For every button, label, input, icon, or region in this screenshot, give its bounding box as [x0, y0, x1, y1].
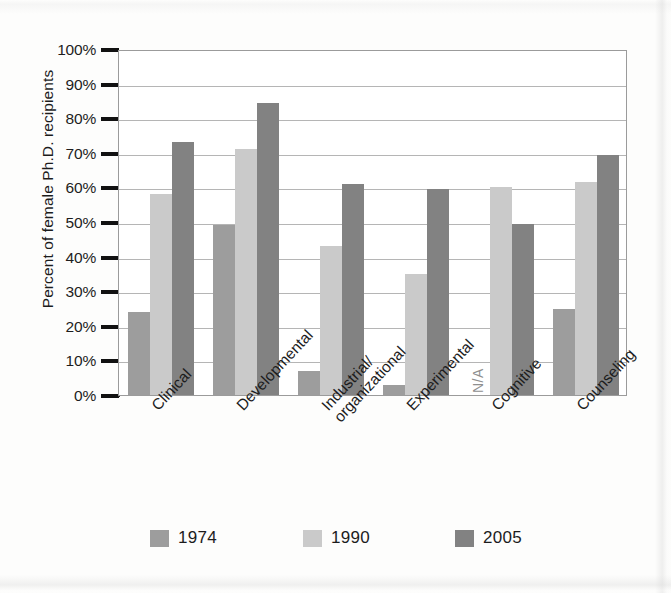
bar: [575, 182, 597, 395]
y-axis-tick-label-wrap: 10%: [36, 352, 96, 368]
y-axis-tick: [101, 48, 119, 52]
legend-label: 2005: [483, 528, 522, 548]
legend-item[interactable]: 1974: [150, 528, 217, 548]
y-axis-tick: [101, 325, 119, 329]
y-axis-tick-label: 70%: [40, 145, 96, 163]
bar: [257, 103, 279, 395]
y-axis-tick-label: 100%: [40, 41, 96, 59]
y-axis-tick-label: 20%: [40, 318, 96, 336]
legend-item[interactable]: 2005: [455, 528, 522, 548]
legend-item[interactable]: 1990: [303, 528, 370, 548]
y-axis-tick: [101, 83, 119, 87]
chart-legend: 197419902005: [150, 528, 550, 554]
bar: [383, 385, 405, 395]
gridline: [119, 189, 626, 190]
grouped-bar-chart: Percent of female Ph.D. recipients 100%9…: [0, 0, 671, 593]
y-axis-tick-label: 90%: [40, 76, 96, 94]
y-axis-tick-label: 40%: [40, 249, 96, 267]
bar: [553, 309, 575, 396]
gridline: [119, 259, 626, 260]
y-axis-tick-label: 10%: [40, 352, 96, 370]
legend-swatch-icon: [455, 530, 474, 547]
y-axis-tick-label-wrap: 0%: [36, 387, 96, 403]
y-axis-tick: [101, 394, 119, 398]
y-axis-tick-label: 30%: [40, 283, 96, 301]
legend-swatch-icon: [150, 530, 169, 547]
bar: [405, 274, 427, 395]
y-axis-tick-label-wrap: 60%: [36, 179, 96, 195]
bar: [213, 225, 235, 395]
y-axis-tick: [101, 290, 119, 294]
y-axis-tick: [101, 152, 119, 156]
bar: [490, 187, 512, 395]
bar: [320, 246, 342, 395]
bar: [172, 142, 194, 395]
y-axis-tick: [101, 256, 119, 260]
gridline: [119, 224, 626, 225]
y-axis-tick-label-wrap: 40%: [36, 249, 96, 265]
y-axis-tick-label: 50%: [40, 214, 96, 232]
bar: [150, 194, 172, 395]
y-axis-tick: [101, 117, 119, 121]
scanned-chart-page: Percent of female Ph.D. recipients 100%9…: [0, 0, 671, 593]
y-axis-tick-label-wrap: 50%: [36, 214, 96, 230]
y-axis-tick-label-wrap: 100%: [36, 41, 96, 57]
legend-swatch-icon: [303, 530, 322, 547]
bar: [235, 149, 257, 395]
bar: [128, 312, 150, 395]
y-axis-tick: [101, 186, 119, 190]
gridline: [119, 86, 626, 87]
y-axis-tick-label-wrap: 90%: [36, 76, 96, 92]
y-axis-tick: [101, 359, 119, 363]
legend-label: 1990: [331, 528, 370, 548]
y-axis-tick-label-wrap: 70%: [36, 145, 96, 161]
bar: [298, 371, 320, 395]
y-axis-tick-label: 0%: [40, 387, 96, 405]
gridline: [119, 293, 626, 294]
y-axis-tick-label-wrap: 20%: [36, 318, 96, 334]
y-axis-tick-label-wrap: 30%: [36, 283, 96, 299]
y-axis-tick: [101, 221, 119, 225]
gridline: [119, 120, 626, 121]
gridline: [119, 328, 626, 329]
bar-na-marker: N/A: [470, 368, 486, 393]
legend-label: 1974: [178, 528, 217, 548]
gridline: [119, 155, 626, 156]
y-axis-tick-label: 60%: [40, 179, 96, 197]
y-axis-tick-label-wrap: 80%: [36, 110, 96, 126]
y-axis-tick-label: 80%: [40, 110, 96, 128]
